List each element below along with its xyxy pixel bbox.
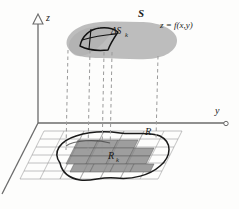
projection-line <box>66 50 68 150</box>
z-axis-label: z <box>45 12 50 23</box>
diagram-canvas: z y S z = f(x,y) ΔS k R R k <box>0 0 239 209</box>
z-axis-arrowhead-icon <box>33 14 43 24</box>
surface-equation-label: z = f(x,y) <box>159 20 193 30</box>
x-axis-line <box>2 123 38 194</box>
y-axis-arrow-cap <box>224 121 228 125</box>
y-axis-label: y <box>214 105 220 116</box>
projection-line <box>156 56 158 140</box>
subrectangle-label-text: R <box>107 150 114 161</box>
projection-line <box>88 50 90 152</box>
region-label-R: R <box>144 126 152 137</box>
figure-container: z y S z = f(x,y) ΔS k R R k <box>0 0 239 209</box>
patch-label-subscript: k <box>125 31 128 38</box>
surface-label-S: S <box>138 7 144 19</box>
subrectangle-label-subscript: k <box>116 156 119 163</box>
patch-label-text: ΔS <box>110 26 122 36</box>
